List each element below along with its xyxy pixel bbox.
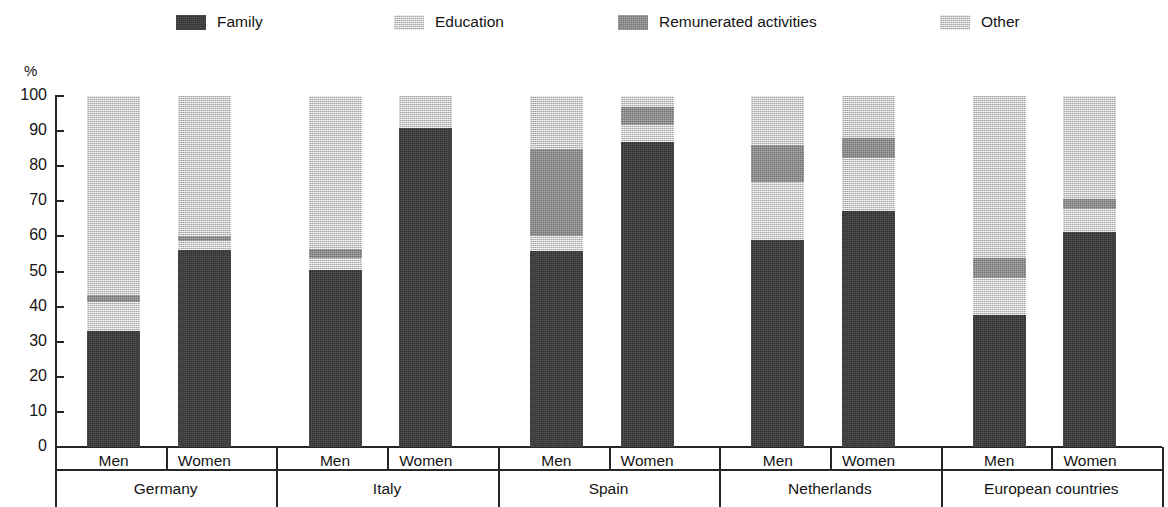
bar-segment-remunerated-activities [621,107,674,125]
bar-segment-education [530,236,583,251]
bar-netherlands-women [842,96,895,447]
x-axis-label-germany-women: Women [166,452,243,470]
bar-segment-remunerated-activities [309,249,362,258]
x-axis-label-netherlands-women: Women [830,452,907,470]
bar-segment-education [621,125,674,143]
bar-segment-remunerated-activities [973,258,1026,278]
bar-segment-family [399,128,452,447]
x-axis-label-european-countries-men: Men [961,452,1038,470]
bar-segment-other [309,96,362,249]
bar-segment-other [842,96,895,138]
bar-segment-education [87,302,140,331]
x-axis-group-separator [719,447,721,507]
y-axis-tick-60: 60 [3,227,47,243]
bar-segment-family [178,250,231,447]
bar-netherlands-men [751,96,804,447]
y-axis-tick-40: 40 [3,298,47,314]
bar-segment-remunerated-activities [842,138,895,158]
x-axis-label-netherlands-men: Men [739,452,816,470]
y-axis-tick-mark [57,271,64,273]
x-axis-group-frame-edge [1162,447,1164,507]
bar-segment-family [1063,232,1116,447]
bar-germany-women [178,96,231,447]
y-axis-tick-10: 10 [3,403,47,419]
bar-italy-men [309,96,362,447]
bar-segment-family [842,211,895,447]
bar-segment-other [178,96,231,236]
bar-segment-family [751,240,804,447]
x-axis-minor-separator [1051,447,1053,469]
x-axis-group-separator [498,447,500,507]
y-axis-tick-mark [57,130,64,132]
y-axis-tick-mark [57,200,64,202]
bar-segment-other [87,96,140,295]
bar-segment-remunerated-activities [87,295,140,302]
bar-segment-family [973,315,1026,447]
bar-spain-women [621,96,674,447]
x-axis-group-separator [276,447,278,507]
y-axis-tick-70: 70 [3,192,47,208]
bar-segment-other [1063,96,1116,199]
x-axis-minor-separator [166,447,168,469]
bar-segment-education [178,241,231,250]
x-axis-group-label-european-countries: European countries [941,480,1162,498]
x-axis-label-italy-women: Women [387,452,464,470]
x-axis-label-spain-men: Men [518,452,595,470]
y-axis-tick-0: 0 [3,438,47,454]
bar-segment-remunerated-activities [751,145,804,182]
y-axis-tick-mark [57,411,64,413]
y-axis-tick-labels: 1009080706050403020100 [0,0,47,507]
bar-segment-family [87,331,140,447]
y-axis-tick-mark [57,95,64,97]
x-axis-group-label-spain: Spain [498,480,719,498]
chart-plot-area: % 1009080706050403020100 MenWomenMenWome… [0,0,1168,507]
y-axis-tick-mark [57,341,64,343]
bar-european-countries-men [973,96,1026,447]
bar-segment-education [751,182,804,240]
x-axis-group-frame-edge [55,447,57,507]
x-axis-minor-separator [609,447,611,469]
x-axis-group-label-netherlands: Netherlands [719,480,940,498]
bar-segment-remunerated-activities [530,149,583,237]
bar-segment-family [621,142,674,447]
x-axis-group-separator [941,447,943,507]
y-axis-tick-100: 100 [3,87,47,103]
bar-segment-family [309,270,362,447]
x-axis-label-germany-men: Men [75,452,152,470]
bar-segment-remunerated-activities [1063,199,1116,209]
bar-segment-other [621,96,674,107]
y-axis-tick-20: 20 [3,368,47,384]
bar-segment-education [842,158,895,211]
bar-segment-other [973,96,1026,258]
y-axis-tick-90: 90 [3,122,47,138]
bar-germany-men [87,96,140,447]
x-axis-minor-separator [830,447,832,469]
y-axis-tick-80: 80 [3,157,47,173]
y-axis-tick-50: 50 [3,263,47,279]
y-axis-tick-mark [57,376,64,378]
y-axis-tick-mark [57,165,64,167]
x-axis-label-european-countries-women: Women [1051,452,1128,470]
bar-segment-family [530,251,583,447]
bar-segment-education [309,258,362,270]
x-axis-label-italy-men: Men [297,452,374,470]
bar-segment-other [399,96,452,128]
x-axis-label-spain-women: Women [609,452,686,470]
x-axis-group-label-italy: Italy [276,480,497,498]
x-axis-group-label-germany: Germany [55,480,276,498]
bar-italy-women [399,96,452,447]
x-axis-minor-separator [387,447,389,469]
stacked-bar-series-container [55,96,1162,447]
y-axis-tick-mark [57,235,64,237]
bar-european-countries-women [1063,96,1116,447]
bar-segment-other [751,96,804,145]
bar-segment-education [1063,209,1116,232]
y-axis-tick-mark [57,306,64,308]
bar-spain-men [530,96,583,447]
bar-segment-other [530,96,583,149]
bar-segment-education [973,278,1026,315]
y-axis-tick-30: 30 [3,333,47,349]
